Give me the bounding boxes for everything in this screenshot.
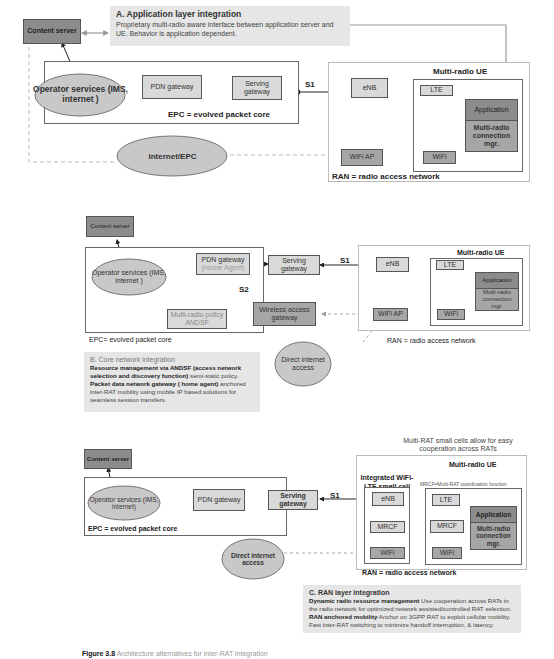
wifi-ap-a: WiFi AP bbox=[341, 149, 383, 166]
note-b-title: B. Core network integration bbox=[90, 355, 254, 364]
operator-services-label: Operator services (IMS, internet ) bbox=[33, 85, 128, 105]
note-c-l2-bold: RAN anchored mobility bbox=[309, 613, 377, 620]
home-agent-label: (Home Agent) bbox=[201, 264, 244, 272]
figure-caption: Figure 3.8 Architecture alternatives for… bbox=[82, 650, 268, 657]
mrcf-definition: MRCF=Multi-RAT coordination function bbox=[420, 481, 507, 487]
application-label: Application bbox=[482, 277, 511, 284]
serving-gateway-label: Serving gateway bbox=[233, 80, 281, 96]
wifi-a: WiFi bbox=[423, 151, 456, 164]
pdn-gateway-label: PDN gateway bbox=[202, 256, 245, 264]
application-label: Application bbox=[476, 511, 511, 518]
caption-prefix: Figure 3.8 bbox=[82, 650, 115, 657]
pdn-gateway-label: PDN gateway bbox=[151, 83, 194, 91]
content-server-a: Content server bbox=[23, 19, 81, 44]
internet-epc-label: Internet/EPC bbox=[148, 152, 196, 161]
enb-label: eNB bbox=[363, 84, 377, 92]
wifi-label: WiFi bbox=[444, 310, 458, 318]
s2-label-b: S2 bbox=[239, 285, 249, 294]
content-server-c: Content server bbox=[84, 449, 132, 469]
wifi-ue: WiFi bbox=[432, 547, 462, 559]
mrcm-a: Multi-radio connection mgr. bbox=[465, 121, 518, 152]
serving-gateway-b: Serving gateway bbox=[268, 255, 320, 275]
content-server-label: Content server bbox=[87, 456, 129, 463]
note-a: A. Application layer integration Proprie… bbox=[110, 6, 350, 46]
wifi-ap-label: WiFi AP bbox=[350, 153, 375, 161]
pdn-gateway-a: PDN gateway bbox=[142, 75, 202, 99]
ran-label-b: RAN = radio access network bbox=[387, 337, 476, 344]
lte-label: LTE bbox=[440, 496, 452, 504]
mrcf-cell-label: MRCF bbox=[377, 523, 397, 531]
application-a: Application bbox=[465, 99, 518, 121]
pdn-gateway-b: PDN gateway (Home Agent) bbox=[196, 253, 250, 275]
caption-text: Architecture alternatives for inter-RAT … bbox=[117, 650, 268, 657]
enb-label: eNB bbox=[381, 495, 395, 503]
mrcf-cell: MRCF bbox=[370, 521, 405, 533]
note-b-l1-rest: semi-static policy. bbox=[188, 372, 238, 379]
wifi-ue-label: WiFi bbox=[440, 549, 454, 557]
internet-epc-cloud: Internet/EPC bbox=[115, 134, 230, 179]
direct-internet-c: Direct internet access bbox=[220, 537, 286, 581]
content-server-label: Content server bbox=[90, 223, 129, 230]
lte-label: LTE bbox=[430, 86, 442, 94]
wifi-label: WiFi bbox=[433, 153, 447, 161]
wifi-ap-label: WiFi AP bbox=[378, 310, 403, 318]
epc-label-a: EPC = evolved packet core bbox=[168, 110, 270, 119]
lte-c: LTE bbox=[432, 494, 460, 506]
direct-internet-b: Direct internet access bbox=[273, 340, 333, 388]
operator-services-c: Operator services (IMS, internet) bbox=[86, 484, 162, 522]
enb-a: eNB bbox=[351, 78, 388, 98]
wag-label: Wireless access gateway bbox=[254, 306, 315, 322]
ue-title-c: Multi-radio UE bbox=[449, 461, 496, 468]
serving-gateway-label: Serving gateway bbox=[269, 257, 319, 273]
wifi-cell-label: WiFi bbox=[381, 549, 395, 557]
note-c-title: C. RAN layer integration bbox=[309, 588, 515, 597]
note-b: B. Core network integration Resource man… bbox=[84, 352, 260, 412]
serving-gateway-a: Serving gateway bbox=[232, 76, 282, 100]
enb-label: eNB bbox=[386, 260, 400, 268]
ran-label-c: RAN = radio access network bbox=[362, 569, 456, 576]
mrcf-ue-label: MRCF bbox=[437, 522, 457, 530]
note-c: C. RAN layer integration Dynamic radio r… bbox=[303, 585, 521, 633]
wifi-b: WiFi bbox=[437, 309, 465, 320]
andsf-policy-label: Multi-radio policy ANDSF bbox=[168, 311, 226, 327]
mrcm-label: Multi-radio connection mgr. bbox=[476, 289, 518, 310]
operator-services-a: Operator services (IMS, internet ) bbox=[33, 72, 128, 118]
mrcm-c: Multi-radio connection mgr. bbox=[470, 523, 517, 550]
mrcm-b: Multi-radio connection mgr. bbox=[475, 289, 519, 311]
epc-label-c: EPC = evolved packet core bbox=[88, 525, 177, 532]
andsf-policy-b: Multi-radio policy ANDSF bbox=[167, 309, 227, 329]
mrcm-label: Multi-radio connection mgr. bbox=[471, 525, 516, 547]
operator-services-b: Operator services (IMS, internet ) bbox=[90, 257, 168, 297]
application-label: Application bbox=[474, 106, 508, 114]
application-b: Application bbox=[475, 272, 519, 289]
pdn-gateway-c: PDN gateway bbox=[193, 489, 245, 511]
small-cell-note: Multi-RAT small cells allow for easy coo… bbox=[398, 437, 518, 454]
ran-label-a: RAN = radio access network bbox=[332, 172, 440, 181]
content-server-b: Content server bbox=[86, 216, 134, 237]
pdn-gateway-label: PDN gateway bbox=[198, 496, 241, 504]
lte-b: LTE bbox=[436, 260, 464, 270]
wifi-cell: WiFi bbox=[370, 547, 405, 559]
wireless-access-gateway-b: Wireless access gateway bbox=[253, 302, 316, 326]
mrcm-label: Multi-radio connection mgr. bbox=[466, 124, 517, 148]
content-server-label: Content server bbox=[27, 27, 76, 35]
operator-services-label: Operator services (IMS, internet) bbox=[86, 496, 162, 511]
enb-b: eNB bbox=[376, 257, 409, 272]
serving-gateway-c: Serving gateway bbox=[268, 490, 318, 510]
direct-internet-label: Direct internet access bbox=[273, 356, 333, 372]
note-a-body: Proprietary multi-radio aware interface … bbox=[116, 20, 344, 38]
epc-label-b: EPC= evolved packet core bbox=[89, 336, 172, 343]
note-c-l1-bold: Dynamic radio resource management bbox=[309, 597, 419, 604]
s1-label-a: S1 bbox=[305, 80, 315, 89]
note-a-title: A. Application layer integration bbox=[116, 9, 344, 20]
operator-services-label: Operator services (IMS, internet ) bbox=[90, 269, 168, 285]
mrcf-ue: MRCF bbox=[430, 520, 464, 533]
enb-c: eNB bbox=[372, 492, 404, 506]
application-c: Application bbox=[470, 506, 517, 523]
s1-label-c: S1 bbox=[330, 491, 340, 500]
wifi-ap-b: WiFi AP bbox=[373, 308, 408, 321]
note-b-l2-bold: Packet data network gateway ( home agent… bbox=[90, 380, 218, 387]
ue-title-b: Multi-radio UE bbox=[457, 249, 504, 256]
s1-label-b: S1 bbox=[340, 256, 350, 265]
direct-internet-label: Direct internet access bbox=[220, 552, 286, 567]
